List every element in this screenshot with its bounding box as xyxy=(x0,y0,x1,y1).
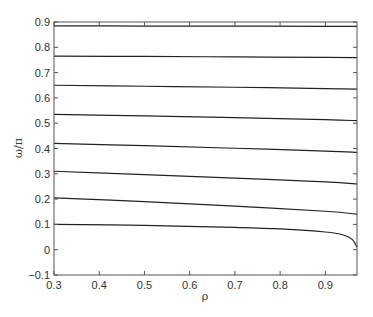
series-line-mode-7 xyxy=(54,56,357,58)
y-tick-label: 0.2 xyxy=(35,193,50,205)
axes-box xyxy=(54,22,357,275)
y-tick-label: 0.4 xyxy=(35,143,50,155)
x-axis-ticks: 0.30.40.50.60.70.80.9 xyxy=(46,22,333,291)
x-tick-label: 0.7 xyxy=(227,279,242,291)
x-tick-label: 0.4 xyxy=(92,279,107,291)
x-tick-label: 0.9 xyxy=(318,279,333,291)
x-axis-label: ρ xyxy=(202,290,208,303)
y-tick-label: 0.7 xyxy=(35,67,50,79)
series-line-mode-1 xyxy=(54,224,357,247)
series-line-mode-6 xyxy=(54,85,357,89)
series-line-mode-2 xyxy=(54,198,357,214)
y-tick-label: 0.5 xyxy=(35,117,50,129)
series-line-mode-4 xyxy=(54,143,357,152)
y-tick-label: 0 xyxy=(44,244,50,256)
x-tick-label: 0.5 xyxy=(137,279,152,291)
x-tick-label: 0.6 xyxy=(182,279,197,291)
y-tick-label: 0.3 xyxy=(35,168,50,180)
y-tick-label: 0.8 xyxy=(35,41,50,53)
x-tick-label: 0.8 xyxy=(272,279,287,291)
y-axis-label: ω/π xyxy=(12,138,25,158)
series-line-mode-3 xyxy=(54,171,357,184)
series-line-mode-5 xyxy=(54,114,357,120)
plot-lines xyxy=(54,26,357,247)
y-tick-label: −0.1 xyxy=(28,269,50,281)
chart: 0.30.40.50.60.70.80.9 −0.100.10.20.30.40… xyxy=(0,0,373,317)
y-tick-label: 0.9 xyxy=(35,16,50,28)
y-tick-label: 0.6 xyxy=(35,92,50,104)
y-tick-label: 0.1 xyxy=(35,218,50,230)
